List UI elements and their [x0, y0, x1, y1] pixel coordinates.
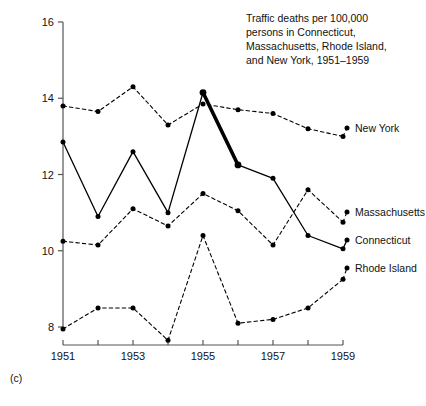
title-line-1: Traffic deaths per 100,000: [246, 12, 368, 24]
x-axis-tick-label: 1951: [51, 350, 75, 362]
data-point: [236, 208, 241, 213]
data-point: [271, 317, 276, 322]
data-point: [341, 277, 346, 282]
legend-marker: [345, 126, 350, 131]
data-point: [166, 223, 171, 228]
y-axis-tick-label: 12: [42, 169, 54, 181]
data-point: [61, 326, 66, 331]
title-line-2: persons in Connecticut,: [246, 26, 356, 38]
data-point: [306, 233, 311, 238]
data-point: [306, 187, 311, 192]
y-axis-tick-label: 14: [42, 92, 54, 104]
traffic-deaths-line-chart: Traffic deaths per 100,000 persons in Co…: [0, 0, 426, 406]
x-axis-tick-label: 1953: [121, 350, 145, 362]
chart-canvas: Traffic deaths per 100,000 persons in Co…: [0, 0, 426, 406]
series-label-massachusetts: Massachusetts: [355, 206, 425, 218]
legend-marker: [345, 210, 350, 215]
y-axis-tick-label: 8: [48, 321, 54, 333]
series-label-rhode-island: Rhode Island: [355, 262, 417, 274]
y-axis-tick-label: 16: [42, 16, 54, 28]
panel-label: (c): [10, 372, 22, 384]
data-point: [201, 233, 206, 238]
data-point: [166, 122, 171, 127]
data-point: [96, 305, 101, 310]
data-point: [200, 89, 207, 96]
x-axis-tick-label: 1959: [331, 350, 355, 362]
data-point: [235, 162, 242, 169]
data-point: [306, 126, 311, 131]
data-point: [236, 321, 241, 326]
x-axis-tick-label: 1955: [191, 350, 215, 362]
data-point: [61, 103, 66, 108]
series-label-new-york: New York: [355, 122, 400, 134]
legend-marker: [345, 266, 350, 271]
data-point: [306, 305, 311, 310]
data-point: [131, 206, 136, 211]
y-axis-tick-label: 10: [42, 245, 54, 257]
data-point: [341, 246, 346, 251]
data-point: [271, 176, 276, 181]
data-point: [166, 210, 171, 215]
data-point: [236, 107, 241, 112]
data-point: [96, 214, 101, 219]
data-point: [96, 109, 101, 114]
series-label-connecticut: Connecticut: [355, 234, 411, 246]
legend-marker: [345, 238, 350, 243]
data-point: [61, 239, 66, 244]
title-line-4: and New York, 1951–1959: [246, 54, 369, 66]
title-line-3: Massachusetts, Rhode Island,: [246, 40, 387, 52]
data-point: [131, 149, 136, 154]
x-axis-tick-label: 1957: [261, 350, 285, 362]
data-point: [201, 101, 206, 106]
data-point: [201, 191, 206, 196]
data-point: [61, 140, 66, 145]
data-point: [96, 243, 101, 248]
data-point: [271, 243, 276, 248]
data-point: [271, 111, 276, 116]
data-point: [166, 338, 171, 343]
data-point: [131, 305, 136, 310]
data-point: [131, 84, 136, 89]
